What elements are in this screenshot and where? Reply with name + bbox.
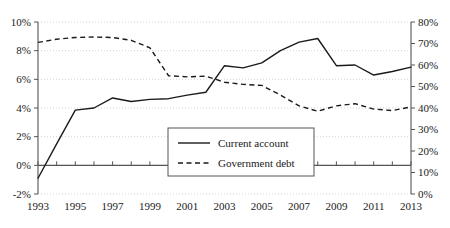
right-axis-group: 0%10%20%30%40%50%60%70%80% xyxy=(411,16,438,200)
x-axis-tick-label: 2013 xyxy=(400,200,423,212)
right-axis-tick-label: 50% xyxy=(418,80,438,92)
series-line-government-debt xyxy=(38,37,411,111)
left-axis-tick-label: 8% xyxy=(16,44,31,56)
x-axis-tick-label: 2001 xyxy=(176,200,198,212)
x-axis-tick-label: 2009 xyxy=(325,200,348,212)
left-axis-tick-label: 2% xyxy=(16,130,31,142)
x-axis-tick-label: 1997 xyxy=(102,200,125,212)
x-axis-tick-label: 2011 xyxy=(363,200,385,212)
x-axis-tick-label: 1993 xyxy=(27,200,50,212)
right-axis-tick-label: 40% xyxy=(418,102,438,114)
x-axis-tick-label: 2003 xyxy=(214,200,237,212)
left-axis-tick-label: 6% xyxy=(16,73,31,85)
left-axis-group: -2%0%2%4%6%8%10% xyxy=(11,16,38,200)
legend: Current accountGovernment debt xyxy=(168,128,314,176)
x-axis-tick-label: 2007 xyxy=(288,200,311,212)
x-axis-tick-label: 2005 xyxy=(251,200,274,212)
legend-label: Government debt xyxy=(218,157,295,169)
right-axis-tick-label: 80% xyxy=(418,16,438,28)
left-axis-tick-label: -2% xyxy=(13,188,31,200)
right-axis-tick-label: 10% xyxy=(418,166,438,178)
left-axis-tick-label: 10% xyxy=(11,16,31,28)
right-axis-tick-label: 20% xyxy=(418,145,438,157)
chart-container: -2%0%2%4%6%8%10% 0%10%20%30%40%50%60%70%… xyxy=(0,0,450,228)
left-axis-tick-label: 4% xyxy=(16,102,31,114)
left-axis-tick-label: 0% xyxy=(16,159,31,171)
x-axis-tick-label: 1999 xyxy=(139,200,162,212)
right-axis-tick-label: 60% xyxy=(418,59,438,71)
right-axis-tick-label: 0% xyxy=(418,188,433,200)
right-axis-tick-label: 30% xyxy=(418,123,438,135)
right-axis-tick-label: 70% xyxy=(418,37,438,49)
legend-label: Current account xyxy=(218,137,289,149)
x-axis-tick-label: 1995 xyxy=(64,200,87,212)
dual-axis-line-chart: -2%0%2%4%6%8%10% 0%10%20%30%40%50%60%70%… xyxy=(0,0,450,228)
